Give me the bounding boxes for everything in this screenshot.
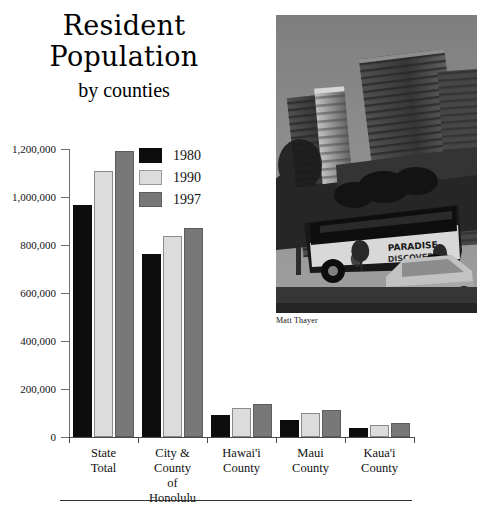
bar-1980-4 — [349, 428, 368, 437]
figure-title-block: Resident Population by counties — [8, 10, 240, 103]
page-title-line-1: Resident — [8, 10, 240, 41]
y-axis-tick — [61, 149, 70, 150]
x-axis-tick — [207, 437, 208, 443]
bar-1997-2 — [253, 404, 272, 437]
y-axis-tick-label: 600,000 — [0, 288, 56, 299]
bar-chart: 0200,000400,000600,000800,0001,000,0001,… — [0, 140, 420, 450]
bar-group — [349, 149, 410, 437]
x-axis-category-label: City & County of Honolulu — [138, 446, 207, 506]
bar-1990-1 — [163, 236, 182, 437]
y-axis-tick — [61, 245, 70, 246]
page-title-line-2: Population — [8, 41, 240, 72]
bar-1980-0 — [73, 205, 92, 437]
y-axis-tick-label: 0 — [0, 432, 56, 443]
x-axis-tick — [345, 437, 346, 443]
bar-1997-1 — [184, 228, 203, 437]
y-axis-tick — [61, 293, 70, 294]
bar-1990-4 — [370, 425, 389, 437]
y-axis-tick — [61, 389, 70, 390]
x-axis-category-label: Kaua'i County — [345, 446, 414, 476]
bar-1997-0 — [115, 151, 134, 437]
bar-group — [142, 149, 203, 437]
x-axis-tick — [69, 437, 70, 443]
y-axis-tick-label: 400,000 — [0, 336, 56, 347]
bar-1980-3 — [280, 420, 299, 437]
bar-1980-1 — [142, 254, 161, 437]
bar-1990-0 — [94, 171, 113, 437]
figure-bottom-rule — [60, 500, 412, 501]
y-axis-tick-label: 1,000,000 — [0, 192, 56, 203]
bar-1997-3 — [322, 410, 341, 437]
bar-1980-2 — [211, 415, 230, 437]
x-axis-tick — [414, 437, 415, 443]
y-axis-tick-label: 200,000 — [0, 384, 56, 395]
bar-1997-4 — [391, 423, 410, 437]
x-axis-tick — [276, 437, 277, 443]
y-axis-tick — [61, 197, 70, 198]
y-axis-tick-label: 800,000 — [0, 240, 56, 251]
bar-group — [211, 149, 272, 437]
x-axis-category-label: Maui County — [276, 446, 345, 476]
bar-1990-3 — [301, 413, 320, 437]
x-axis-category-label: Hawai'i County — [207, 446, 276, 476]
page-subtitle: by counties — [8, 77, 240, 103]
bar-group — [280, 149, 341, 437]
resident-population-figure: Resident Population by counties — [0, 0, 490, 508]
y-axis-tick-label: 1,200,000 — [0, 144, 56, 155]
bar-1990-2 — [232, 408, 251, 437]
bar-group — [73, 149, 134, 437]
x-axis-category-label: State Total — [69, 446, 138, 476]
y-axis-tick — [61, 341, 70, 342]
x-axis-tick — [138, 437, 139, 443]
